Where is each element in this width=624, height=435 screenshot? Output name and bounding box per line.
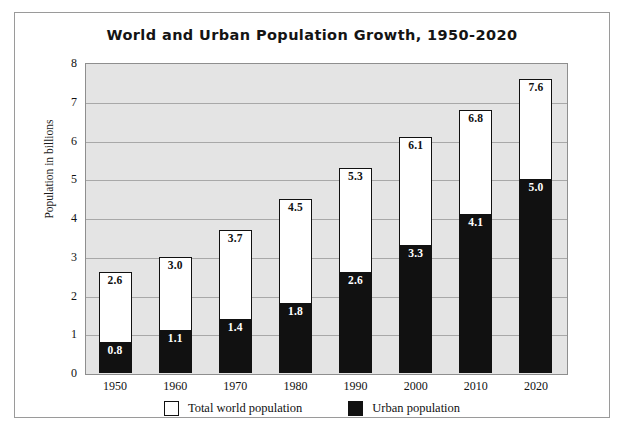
bar-group[interactable]: 3.01.1 [159, 63, 192, 373]
bar-value-label-total: 3.7 [220, 232, 251, 244]
bar-group[interactable]: 6.84.1 [459, 63, 492, 373]
bar-segment-urban[interactable]: 0.8 [99, 342, 132, 373]
y-axis-tick-label: 6 [15, 133, 77, 148]
bar-group[interactable]: 6.13.3 [399, 63, 432, 373]
chart-title: World and Urban Population Growth, 1950-… [15, 27, 609, 43]
bar-value-label-urban: 1.4 [220, 321, 251, 333]
y-axis-tick-label: 5 [15, 172, 77, 187]
bar-value-label-total: 3.0 [160, 259, 191, 271]
bar-segment-urban[interactable]: 3.3 [399, 245, 432, 373]
bar-segment-urban[interactable]: 1.8 [279, 303, 312, 373]
bar-segment-urban[interactable]: 2.6 [339, 272, 372, 373]
bar-value-label-total: 4.5 [280, 201, 311, 213]
bar-value-label-urban: 5.0 [520, 181, 551, 193]
bar-value-label-urban: 1.1 [160, 332, 191, 344]
bar-value-label-urban: 2.6 [340, 274, 371, 286]
bar-segment-urban[interactable]: 5.0 [519, 179, 552, 373]
x-axis-tick-label: 1980 [265, 379, 325, 394]
legend-swatch-black [348, 401, 363, 416]
bar-value-label-urban: 4.1 [460, 216, 491, 228]
bar-value-label-total: 6.8 [460, 112, 491, 124]
legend-label: Total world population [188, 401, 302, 416]
y-axis-tick-label: 1 [15, 327, 77, 342]
y-axis-tick-label: 0 [15, 366, 77, 381]
bar-segment-urban[interactable]: 1.4 [219, 319, 252, 373]
x-axis-tick-labels: 19501960197019801990200020102020 [85, 379, 566, 397]
bar-group[interactable]: 3.71.4 [219, 63, 252, 373]
bar-group[interactable]: 7.65.0 [519, 63, 552, 373]
y-axis-tick-label: 4 [15, 211, 77, 226]
legend-item[interactable]: Urban population [348, 401, 460, 416]
bar-value-label-total: 2.6 [100, 274, 131, 286]
x-axis-tick-label: 1950 [85, 379, 145, 394]
chart-legend: Total world populationUrban population [15, 401, 609, 416]
legend-item[interactable]: Total world population [164, 401, 302, 416]
y-axis-tick-label: 7 [15, 94, 77, 109]
bar-segment-urban[interactable]: 1.1 [159, 330, 192, 373]
x-axis-tick-label: 2020 [506, 379, 566, 394]
x-axis-tick-label: 1960 [145, 379, 205, 394]
bar-value-label-total: 5.3 [340, 170, 371, 182]
bar-value-label-urban: 3.3 [400, 247, 431, 259]
bar-segment-urban[interactable]: 4.1 [459, 214, 492, 373]
bars-layer: 2.60.83.01.13.71.44.51.85.32.66.13.36.84… [85, 63, 566, 373]
x-axis-tick-label: 1990 [326, 379, 386, 394]
bar-value-label-urban: 0.8 [100, 344, 131, 356]
bar-group[interactable]: 2.60.8 [99, 63, 132, 373]
bar-value-label-total: 6.1 [400, 139, 431, 151]
y-axis-tick-label: 8 [15, 56, 77, 71]
y-axis-tick-label: 3 [15, 249, 77, 264]
x-axis-tick-label: 2000 [386, 379, 446, 394]
legend-swatch-white [164, 401, 179, 416]
x-axis-tick-label: 2010 [446, 379, 506, 394]
x-axis-tick-label: 1970 [205, 379, 265, 394]
figure-frame: World and Urban Population Growth, 1950-… [14, 12, 610, 418]
legend-label: Urban population [372, 401, 460, 416]
bar-value-label-urban: 1.8 [280, 305, 311, 317]
bar-group[interactable]: 4.51.8 [279, 63, 312, 373]
y-axis-tick-label: 2 [15, 288, 77, 303]
bar-value-label-total: 7.6 [520, 81, 551, 93]
bar-group[interactable]: 5.32.6 [339, 63, 372, 373]
